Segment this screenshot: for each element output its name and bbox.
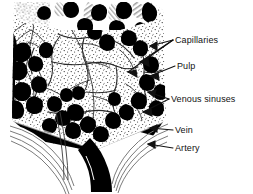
label-artery: Artery [175,143,200,153]
label-venous-sinuses: Venous sinuses [171,94,235,104]
label-vein: Vein [175,125,193,135]
label-pulp: Pulp [177,61,195,71]
label-capillaries: Capillaries [175,35,218,45]
